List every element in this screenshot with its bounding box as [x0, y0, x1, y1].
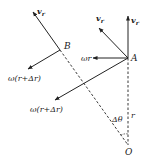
- omega-r-dr-label-B: ω(r+Δr): [8, 74, 41, 83]
- vr-diag-arrow-A: [99, 28, 128, 58]
- omega-r-dr-label-A: ω(r+Δr): [30, 105, 63, 114]
- omega-r-dr-arrow-A: [55, 58, 128, 100]
- point-label-B: B: [63, 41, 71, 51]
- delta-theta-arc: [121, 134, 128, 135]
- velocity-vector-diagram: B A O vr vr vr ωr ω(r+Δr) ω(r+Δr) Δθ r: [0, 0, 147, 158]
- vr-label-B: vr: [37, 6, 46, 17]
- omega-r-dr-arrow-B: [28, 50, 60, 69]
- omega-r-label: ωr: [81, 54, 93, 63]
- delta-theta-label: Δθ: [111, 115, 123, 124]
- point-label-O: O: [125, 147, 133, 157]
- vr-label-A-diag: vr: [96, 13, 105, 24]
- vr-arrow-B: [33, 12, 60, 50]
- radius-label: r: [131, 111, 136, 120]
- point-label-A: A: [130, 53, 138, 63]
- vr-label-A-up: vr: [131, 15, 140, 26]
